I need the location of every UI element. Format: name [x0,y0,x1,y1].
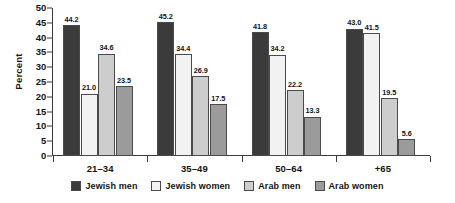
bar-group: 45.234.426.917.5 [147,8,241,156]
legend-label: Jewish women [165,181,230,191]
y-axis-tick-labels: 50454035302520151050 [22,8,46,156]
y-axis-tick-mark [47,156,52,157]
bar-value-label: 13.3 [306,106,320,115]
bar-value-label: 17.5 [211,94,225,103]
bar-slot: 43.0 [346,8,363,156]
y-axis-tick-label: 5 [22,136,46,146]
legend-swatch-icon [244,181,254,191]
bar-value-label: 5.6 [402,129,412,138]
plot-area: 44.221.034.623.545.234.426.917.541.834.2… [53,8,430,156]
y-axis-tick-mark [47,52,52,53]
bar-slot: 21.0 [81,8,98,156]
legend: Jewish menJewish womenArab menArab women [0,181,455,191]
x-axis-tick-mark [242,156,243,162]
y-axis-tick-label: 10 [22,122,46,132]
bar-slot: 26.9 [192,8,209,156]
y-axis-tick-label: 15 [22,107,46,117]
bar-group: 43.041.519.55.6 [336,8,430,156]
bar-value-label: 19.5 [382,88,396,97]
bar-value-label: 23.5 [117,76,131,85]
bar-value-label: 34.4 [176,44,190,53]
bar[interactable] [210,104,227,156]
x-axis-category-label: 35–49 [147,163,241,174]
bar[interactable] [175,54,192,156]
bar-group: 44.221.034.623.5 [53,8,147,156]
y-axis-tick-mark [47,37,52,38]
bar-chart: Percent 50454035302520151050 44.221.034.… [0,0,455,203]
bar[interactable] [287,90,304,156]
bar[interactable] [157,22,174,156]
x-axis-category-label: 21–34 [53,163,147,174]
bar-value-label: 45.2 [159,12,173,21]
bar-slot: 44.2 [63,8,80,156]
legend-label: Arab women [329,181,384,191]
bar[interactable] [346,29,363,156]
bar-slot: 34.4 [175,8,192,156]
bar-value-label: 43.0 [347,18,361,27]
bar-group: 41.834.222.213.3 [242,8,336,156]
x-axis-tick-mark [53,156,54,162]
bar-value-label: 41.5 [365,23,379,32]
y-axis-tick-mark [47,22,52,23]
bar-slot: 45.2 [157,8,174,156]
y-axis-tick-mark [47,126,52,127]
legend-item[interactable]: Arab women [315,181,384,191]
y-axis-tick-label: 45 [22,18,46,28]
legend-item[interactable]: Arab men [244,181,300,191]
y-axis-tick-mark [47,82,52,83]
bar[interactable] [192,76,209,156]
y-axis-tick-label: 40 [22,33,46,43]
legend-swatch-icon [71,181,81,191]
bar-value-label: 34.2 [271,44,285,53]
bar-slot: 41.8 [252,8,269,156]
bar[interactable] [252,32,269,156]
bar-value-label: 44.2 [65,15,79,24]
bar[interactable] [381,98,398,156]
legend-swatch-icon [315,181,325,191]
bar[interactable] [398,139,415,156]
bar[interactable] [363,33,380,156]
y-axis-tick-mark [47,67,52,68]
bar-slot: 23.5 [116,8,133,156]
y-axis-tick-label: 0 [22,151,46,161]
x-axis-tick-mark [430,156,431,162]
bar-slot: 17.5 [210,8,227,156]
legend-item[interactable]: Jewish men [71,181,137,191]
bar[interactable] [98,54,115,156]
bar[interactable] [269,55,286,156]
bar-slot: 5.6 [398,8,415,156]
bar-slot: 34.2 [269,8,286,156]
bar-value-label: 22.2 [288,80,302,89]
legend-item[interactable]: Jewish women [151,181,230,191]
y-axis-tick-label: 25 [22,77,46,87]
x-axis-category-label: 50–64 [242,163,336,174]
y-axis-tick-mark [47,8,52,9]
bar[interactable] [63,25,80,156]
y-axis-tick-mark [47,96,52,97]
legend-label: Jewish men [85,181,137,191]
bar-slot: 41.5 [363,8,380,156]
legend-label: Arab men [258,181,300,191]
bar[interactable] [304,117,321,156]
y-axis-tick-label: 20 [22,92,46,102]
bar-slot: 22.2 [287,8,304,156]
bar-slot: 19.5 [381,8,398,156]
bar-value-label: 26.9 [194,66,208,75]
bar-slot: 34.6 [98,8,115,156]
x-axis-tick-mark [336,156,337,162]
bar-slot: 13.3 [304,8,321,156]
legend-swatch-icon [151,181,161,191]
y-axis-tick-mark [47,141,52,142]
bar-value-label: 21.0 [82,83,96,92]
bar[interactable] [116,86,133,156]
x-axis-tick-mark [147,156,148,162]
bar-value-label: 34.6 [100,43,114,52]
y-axis-tick-label: 30 [22,62,46,72]
bar[interactable] [81,94,98,156]
y-axis-tick-mark [47,111,52,112]
x-axis-category-label: +65 [336,163,430,174]
y-axis-tick-label: 50 [22,3,46,13]
y-axis-tick-label: 35 [22,48,46,58]
bar-value-label: 41.8 [253,22,267,31]
